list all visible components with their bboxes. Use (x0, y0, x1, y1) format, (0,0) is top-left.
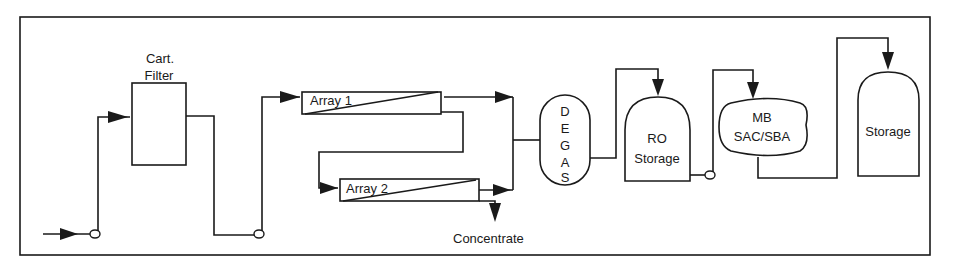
arrow-right-icon (280, 91, 300, 103)
storage-tank: Storage (858, 72, 919, 176)
degas-tower: D E G A S (540, 95, 590, 185)
mb-sac-sba-vessel: MB SAC/SBA (719, 99, 807, 156)
concentrate-label: Concentrate (453, 231, 524, 246)
line-to-array-1 (262, 97, 300, 231)
arrow-down-icon (882, 52, 894, 70)
mb-label-1: MB (752, 110, 772, 125)
degas-letter: A (561, 155, 570, 170)
storage-label: Storage (865, 124, 911, 139)
array-2: Array 2 (340, 179, 479, 201)
array-1: Array 1 (302, 92, 441, 114)
pump-icon (705, 171, 715, 179)
cart-filter-label-2: Filter (145, 68, 175, 83)
line-to-pump-2 (186, 116, 255, 235)
line-to-cart-filter (98, 117, 130, 231)
array-1-concentrate-line (319, 112, 463, 188)
arrow-right-icon (108, 111, 128, 123)
degas-letter: D (560, 104, 569, 119)
arrow-right-icon (495, 91, 513, 103)
arrow-down-icon (652, 79, 664, 96)
degas-letter: S (561, 170, 570, 185)
array-2-label: Array 2 (346, 181, 388, 196)
degas-letter: E (561, 121, 570, 136)
feed-inlet (43, 228, 90, 240)
pump-icon (254, 230, 264, 238)
mb-label-2: SAC/SBA (734, 129, 791, 144)
arrow-down-icon (747, 82, 759, 99)
ro-storage-label-2: Storage (634, 151, 680, 166)
ro-storage-label-1: RO (647, 131, 667, 146)
process-flow-diagram: Cart. Filter Array 1 Array 2 Concentrate… (0, 0, 955, 271)
cart-filter: Cart. Filter (132, 51, 186, 165)
pump-icon (90, 230, 100, 238)
cart-filter-label-1: Cart. (146, 51, 174, 66)
array-1-label: Array 1 (310, 93, 352, 108)
degas-letter: G (560, 138, 570, 153)
arrow-down-icon (489, 203, 501, 222)
arrow-right-icon (320, 182, 338, 194)
arrow-right-icon (60, 228, 78, 240)
ro-storage-tank: RO Storage (625, 97, 690, 181)
arrow-right-icon (493, 184, 511, 196)
